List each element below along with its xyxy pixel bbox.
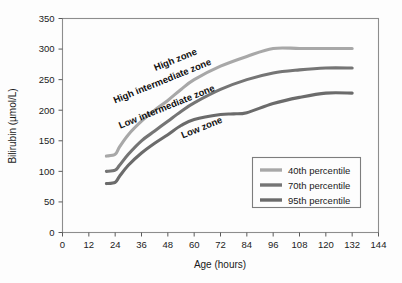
x-tick-label: 96 xyxy=(268,239,279,250)
y-axis-ticks xyxy=(59,19,63,233)
x-tick-label: 24 xyxy=(110,239,121,250)
y-axis-title: Bilirubin (µmol/L) xyxy=(7,88,18,163)
x-tick-label: 144 xyxy=(371,239,387,250)
legend-items: 40th percentile70th percentile95th perce… xyxy=(260,165,350,206)
y-tick-label: 250 xyxy=(39,74,55,85)
legend-label: 40th percentile xyxy=(288,165,350,176)
chart-legend: 40th percentile70th percentile95th perce… xyxy=(253,158,361,208)
legend-label: 95th percentile xyxy=(288,195,350,206)
y-tick-label: 200 xyxy=(39,105,55,116)
y-tick-label: 50 xyxy=(44,196,55,207)
y-tick-label: 150 xyxy=(39,135,55,146)
x-tick-label: 120 xyxy=(318,239,334,250)
x-tick-label: 132 xyxy=(344,239,360,250)
y-tick-label: 300 xyxy=(39,43,55,54)
x-axis-title: Age (hours) xyxy=(194,259,246,270)
legend-label: 70th percentile xyxy=(288,180,350,191)
x-axis-ticks xyxy=(63,233,379,237)
bilirubin-nomogram-chart: 050100150200250300350 012243648607284961… xyxy=(0,0,402,283)
y-tick-label: 0 xyxy=(49,227,54,238)
chart-canvas: 050100150200250300350 012243648607284961… xyxy=(0,0,402,283)
y-tick-label: 100 xyxy=(39,166,55,177)
x-tick-label: 60 xyxy=(189,239,200,250)
x-tick-label: 84 xyxy=(242,239,253,250)
x-tick-label: 0 xyxy=(60,239,65,250)
x-tick-label: 108 xyxy=(292,239,308,250)
x-tick-label: 48 xyxy=(163,239,174,250)
y-tick-label: 350 xyxy=(39,13,55,24)
x-tick-label: 72 xyxy=(215,239,226,250)
x-axis-tick-labels: 01224364860728496108120132144 xyxy=(60,239,387,250)
x-tick-label: 12 xyxy=(84,239,95,250)
y-axis-tick-labels: 050100150200250300350 xyxy=(39,13,55,238)
x-tick-label: 36 xyxy=(136,239,147,250)
